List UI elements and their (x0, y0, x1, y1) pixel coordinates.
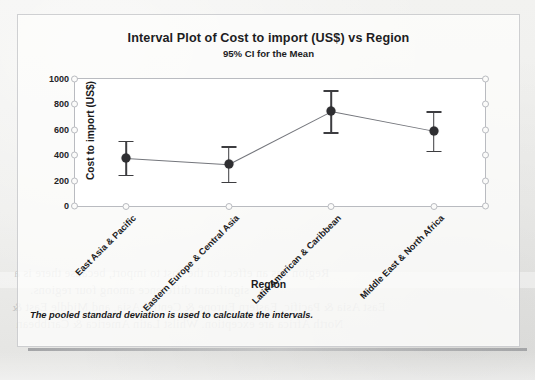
chart-subtitle: 95% CI for the Mean (18, 48, 519, 59)
ci-lower-cap (221, 182, 236, 184)
x-category-label: Latin American & Caribbean (250, 213, 343, 306)
chart-footnote: The pooled standard deviation is used to… (30, 310, 313, 320)
ci-upper-cap (426, 111, 441, 113)
mean-marker (327, 107, 336, 116)
interval-plot-figure: Interval Plot of Cost to import (US$) vs… (17, 14, 520, 347)
ci-lower-cap (324, 132, 339, 134)
chart-title: Interval Plot of Cost to import (US$) vs… (18, 31, 519, 45)
x-category-label: Eastern Europe & Central Asia (141, 213, 241, 313)
ci-lower-cap (426, 151, 441, 153)
mean-marker (122, 153, 131, 162)
ci-lower-cap (119, 175, 134, 177)
series-connector-line (228, 111, 331, 165)
mean-marker (224, 160, 233, 169)
mean-marker (429, 127, 438, 136)
series-mean (75, 79, 485, 206)
ci-upper-cap (119, 141, 134, 143)
ci-upper-cap (324, 90, 339, 92)
series-connector-line (331, 111, 434, 132)
ci-upper-cap (221, 146, 236, 148)
x-category-label: East Asia & Pacific (74, 213, 139, 278)
series-connector-line (126, 158, 229, 166)
x-axis-title: Region (18, 279, 519, 290)
plot-area: Cost to import (US$) 02004006008001000 (74, 78, 486, 207)
